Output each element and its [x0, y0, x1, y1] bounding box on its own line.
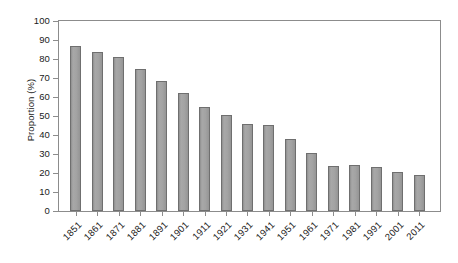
y-tick: 70 [0, 72, 58, 84]
bar [285, 139, 296, 211]
y-tick-label: 50 [39, 110, 50, 122]
bar [156, 81, 167, 211]
y-tick: 100 [0, 15, 58, 27]
x-tick-mark [419, 212, 420, 216]
bar-slot [129, 21, 150, 211]
x-tick-mark [205, 212, 206, 216]
y-tick-label: 100 [34, 15, 50, 27]
x-tick-mark [97, 212, 98, 216]
x-tick: 2001 [387, 212, 408, 262]
y-tick: 50 [0, 110, 58, 122]
bar-slot [258, 21, 279, 211]
bar-slot [301, 21, 322, 211]
bars-area [59, 21, 440, 211]
x-tick-mark [312, 212, 313, 216]
y-tick-label: 90 [39, 34, 50, 46]
y-tick-label: 0 [45, 205, 50, 217]
bar-slot [215, 21, 236, 211]
bar [221, 115, 232, 211]
bar [178, 93, 189, 211]
bar [199, 107, 210, 211]
x-tick: 1951 [280, 212, 301, 262]
y-tick-label: 30 [39, 148, 50, 160]
y-tick-label: 40 [39, 129, 50, 141]
bar [92, 52, 103, 211]
bar [328, 166, 339, 211]
bar [371, 167, 382, 211]
bar-slot [151, 21, 172, 211]
x-tick-label: 1911 [190, 219, 213, 242]
y-tick: 30 [0, 148, 58, 160]
bar [306, 153, 317, 211]
bar-slot [280, 21, 301, 211]
x-tick: 1991 [366, 212, 387, 262]
x-tick-mark [226, 212, 227, 216]
x-tick: 1861 [86, 212, 107, 262]
bar-slot [237, 21, 258, 211]
bar-slot [86, 21, 107, 211]
bar-slot [172, 21, 193, 211]
bar [70, 46, 81, 211]
y-tick: 40 [0, 129, 58, 141]
x-tick-mark [290, 212, 291, 216]
x-tick-mark [162, 212, 163, 216]
y-tick: 10 [0, 186, 58, 198]
bar [135, 69, 146, 211]
bar [414, 175, 425, 211]
y-tick: 60 [0, 91, 58, 103]
bar-slot [366, 21, 387, 211]
x-tick-label: 1851 [60, 219, 83, 242]
y-tick-label: 10 [39, 186, 50, 198]
bar-slot [344, 21, 365, 211]
bar [392, 172, 403, 211]
y-tick-label: 20 [39, 167, 50, 179]
y-tick: 80 [0, 53, 58, 65]
x-tick-mark [333, 212, 334, 216]
bar [113, 57, 124, 211]
bar-slot [108, 21, 129, 211]
x-axis-labels: 1851186118711881189119011911192119311941… [59, 212, 440, 262]
y-axis-ticks: 1009080706050403020100 [0, 20, 58, 212]
y-tick: 90 [0, 34, 58, 46]
y-tick: 0 [0, 205, 58, 217]
x-tick: 2011 [409, 212, 430, 262]
bar-slot [323, 21, 344, 211]
y-tick: 20 [0, 167, 58, 179]
bar-slot [194, 21, 215, 211]
x-tick-mark [355, 212, 356, 216]
x-tick-mark [247, 212, 248, 216]
bar [349, 165, 360, 211]
x-tick-mark [140, 212, 141, 216]
bar [242, 124, 253, 211]
bar-slot [409, 21, 430, 211]
bar-slot [65, 21, 86, 211]
x-tick-label: 2011 [404, 219, 427, 242]
bar-chart: Proportion (%) 1009080706050403020100 18… [0, 0, 458, 263]
x-tick-mark [183, 212, 184, 216]
x-tick-mark [269, 212, 270, 216]
y-tick-label: 80 [39, 53, 50, 65]
x-tick-mark [76, 212, 77, 216]
y-tick-label: 60 [39, 91, 50, 103]
bar-slot [387, 21, 408, 211]
y-tick-label: 70 [39, 72, 50, 84]
x-tick-mark [376, 212, 377, 216]
x-tick: 1901 [172, 212, 193, 262]
x-tick-mark [119, 212, 120, 216]
bar [263, 125, 274, 211]
x-tick-mark [398, 212, 399, 216]
x-tick: 1971 [323, 212, 344, 262]
x-tick: 1881 [129, 212, 150, 262]
